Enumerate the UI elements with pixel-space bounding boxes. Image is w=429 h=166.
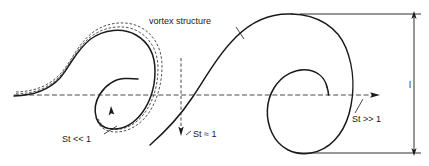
stokes-unity-label: St ≈ 1 xyxy=(193,129,216,139)
left-vortex-outer-curve xyxy=(14,30,155,129)
right-vortex-inner-arm xyxy=(327,87,329,95)
vortex-structure-diagram: vortex structure St << 1 St ≈ 1 St >> 1 … xyxy=(0,0,429,166)
left-vortex-solid-spiral xyxy=(14,30,155,129)
stokes-small-label: St << 1 xyxy=(62,134,91,144)
stokes-large-leader-line xyxy=(355,99,363,113)
stokes-large-label: St >> 1 xyxy=(352,114,381,124)
left-vortex-inner-arm xyxy=(95,78,138,118)
right-vortex-outer-curve xyxy=(267,14,353,154)
boundary-lines xyxy=(297,14,400,153)
stokes-unity-indicator xyxy=(178,58,183,136)
braid-connector xyxy=(150,14,292,145)
stokes-unity-arrowhead xyxy=(178,127,183,137)
centerline-axis xyxy=(14,92,380,98)
vortex-structure-leader-line xyxy=(236,27,244,39)
figure-container: vortex structure St << 1 St ≈ 1 St >> 1 … xyxy=(0,0,429,166)
braid-curve xyxy=(150,14,292,145)
right-vortex-solid-spiral xyxy=(267,14,353,154)
length-scale-label: l xyxy=(409,80,411,90)
rotation-direction-arrow-icon xyxy=(109,106,115,116)
stokes-unity-leader-line xyxy=(186,131,191,135)
vortex-structure-label: vortex structure xyxy=(149,16,211,26)
